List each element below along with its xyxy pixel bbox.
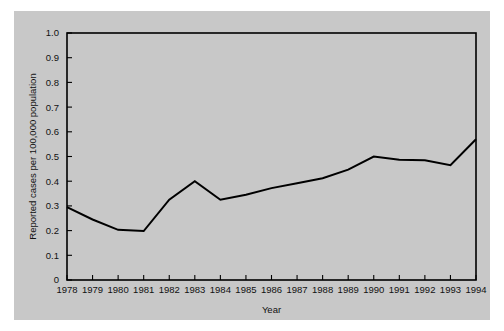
x-tick-label: 1988 <box>312 284 333 295</box>
x-tick-label: 1987 <box>286 284 307 295</box>
x-tick-label: 1978 <box>56 284 77 295</box>
y-tick-label: 0.6 <box>46 126 59 137</box>
y-tick-label: 0.1 <box>46 250 59 261</box>
x-axis-tick-labels: 1978197919801981198219831984198519861987… <box>56 284 486 295</box>
x-tick-label: 1985 <box>235 284 256 295</box>
y-axis-title: Reported cases per 100,000 population <box>27 73 38 239</box>
chart-figure: 00.10.20.30.40.50.60.70.80.91.0 19781979… <box>14 11 490 320</box>
x-tick-label: 1991 <box>389 284 410 295</box>
x-tick-label: 1993 <box>440 284 461 295</box>
x-tick-label: 1981 <box>133 284 154 295</box>
y-tick-label: 0.8 <box>46 77 59 88</box>
data-series-line <box>67 139 476 231</box>
x-tick-label: 1990 <box>363 284 384 295</box>
y-tick-label: 0.4 <box>46 176 59 187</box>
y-axis-tick-labels: 00.10.20.30.40.50.60.70.80.91.0 <box>46 27 59 285</box>
x-tick-label: 1986 <box>261 284 282 295</box>
y-tick-label: 0.5 <box>46 151 59 162</box>
x-tick-label: 1982 <box>159 284 180 295</box>
y-tick-label: 0.9 <box>46 52 59 63</box>
y-tick-label: 0.2 <box>46 225 59 236</box>
x-tick-label: 1984 <box>210 284 231 295</box>
y-tick-label: 0.3 <box>46 200 59 211</box>
plot-frame <box>67 33 476 280</box>
y-tick-label: 1.0 <box>46 27 59 38</box>
y-tick-label: 0.7 <box>46 102 59 113</box>
x-tick-label: 1980 <box>108 284 129 295</box>
x-tick-label: 1989 <box>338 284 359 295</box>
x-axis-title: Year <box>262 304 281 315</box>
x-tick-label: 1983 <box>184 284 205 295</box>
x-tick-label: 1994 <box>465 284 486 295</box>
x-tick-label: 1992 <box>414 284 435 295</box>
line-chart: 00.10.20.30.40.50.60.70.80.91.0 19781979… <box>14 11 490 320</box>
x-tick-label: 1979 <box>82 284 103 295</box>
